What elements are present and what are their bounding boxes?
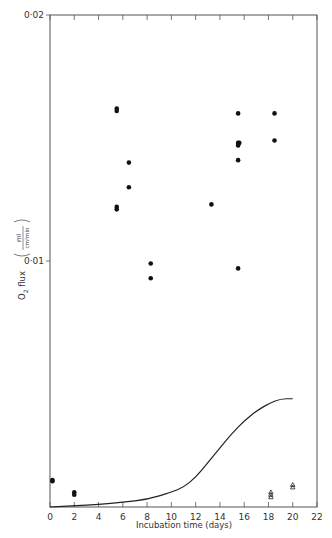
data-point-filled [209, 202, 214, 207]
x-tick-label: 4 [96, 512, 102, 522]
svg-text:ml: ml [15, 234, 23, 242]
data-point-filled [236, 111, 241, 116]
x-tick-label: 2 [71, 512, 77, 522]
scatter-points [50, 106, 295, 499]
x-tick-label: 16 [238, 512, 250, 522]
data-point-filled [72, 492, 77, 497]
x-tick-label: 6 [120, 512, 126, 522]
data-point-filled [236, 158, 241, 163]
x-tick-label: 0 [47, 512, 53, 522]
data-point-filled [114, 109, 119, 114]
x-axis-title: Incubation time (days) [136, 520, 232, 530]
o2-flux-chart: 0246810121416182022 0·010·02 Incubation … [0, 0, 332, 538]
x-tick-label: 18 [263, 512, 275, 522]
data-point-filled [50, 479, 55, 484]
svg-text:O2 flux: O2 flux [17, 271, 29, 300]
data-point-filled [272, 111, 277, 116]
model-curve [50, 399, 293, 507]
y-tick-label: 0·02 [24, 10, 44, 20]
data-point-filled [272, 138, 277, 143]
data-point-filled [148, 261, 153, 266]
x-tick-label: 20 [287, 512, 299, 522]
curve-series [50, 399, 293, 507]
data-point-filled [127, 160, 132, 165]
plot-frame [50, 15, 317, 507]
svg-text:cm²min: cm²min [24, 227, 30, 248]
data-point-filled [236, 266, 241, 271]
x-axis: 0246810121416182022 [47, 15, 323, 522]
x-tick-label: 22 [311, 512, 322, 522]
data-point-filled [114, 207, 119, 212]
data-point-filled [127, 185, 132, 190]
data-point-filled [148, 276, 153, 281]
data-point-filled [236, 143, 241, 148]
y-tick-label: 0·01 [24, 256, 44, 266]
